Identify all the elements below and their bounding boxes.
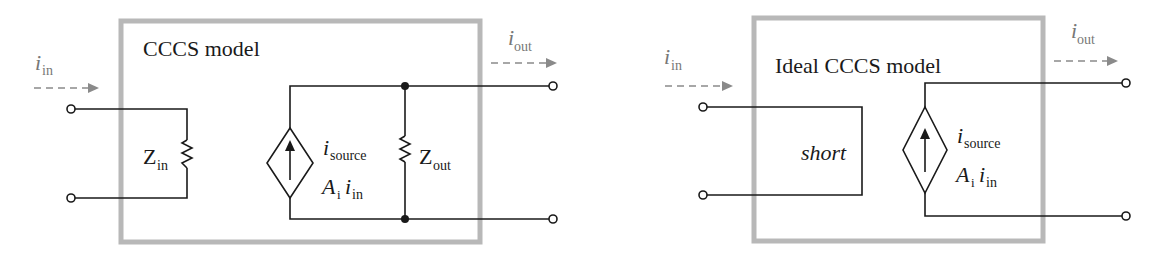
source-top-wire — [290, 86, 405, 128]
isource-symbol: i — [323, 135, 329, 160]
gain-subscript: i — [337, 187, 341, 202]
arrow-up-icon — [920, 128, 930, 139]
source-top-wire — [925, 83, 1123, 107]
arrow-up-icon — [285, 140, 295, 151]
zout-symbol: Z — [419, 144, 432, 169]
input-terminal-bottom — [699, 191, 707, 199]
model-boundary-box — [754, 18, 1043, 241]
iin-subscript: in — [986, 175, 997, 190]
gain-symbol: A — [954, 162, 970, 187]
output-current-subscript: out — [514, 39, 532, 54]
input-current-symbol: i — [35, 50, 41, 75]
input-top-wire — [75, 109, 187, 140]
source-label: i source — [323, 135, 367, 163]
output-current-indicator: i out — [1054, 18, 1118, 66]
gain-subscript: i — [971, 175, 975, 190]
isource-subscript: source — [964, 136, 1001, 151]
input-current-subscript: in — [42, 63, 53, 78]
cccs-model-diagram: CCCS model i in Z in i source A i — [34, 21, 557, 242]
isource-symbol: i — [957, 123, 963, 148]
input-current-indicator: i in — [34, 50, 99, 93]
output-terminal-top — [1122, 79, 1130, 87]
output-current-subscript: out — [1077, 32, 1095, 47]
model-title: CCCS model — [143, 36, 260, 61]
iin-symbol: i — [345, 174, 351, 199]
zin-symbol: Z — [143, 144, 156, 169]
output-impedance-resistor-icon — [400, 136, 410, 162]
input-current-indicator: i in — [664, 44, 733, 91]
model-title: Ideal CCCS model — [775, 53, 941, 78]
output-impedance-label: Z out — [419, 144, 451, 173]
source-label: i source — [957, 123, 1001, 151]
input-terminal-top — [67, 105, 75, 113]
output-terminal-bottom — [549, 215, 557, 223]
zout-subscript: out — [433, 158, 451, 173]
input-terminal-top — [699, 103, 707, 111]
arrowhead-icon — [1107, 56, 1118, 66]
iin-subscript: in — [352, 187, 363, 202]
input-terminal-bottom — [67, 194, 75, 202]
arrowhead-icon — [546, 58, 557, 68]
output-terminal-bottom — [1122, 212, 1130, 220]
source-value: A i i in — [320, 174, 363, 202]
isource-subscript: source — [330, 148, 367, 163]
arrowhead-icon — [88, 83, 99, 93]
input-current-symbol: i — [664, 44, 670, 69]
source-bottom-wire — [925, 193, 1123, 216]
input-bottom-wire — [75, 168, 187, 198]
short-label: short — [801, 140, 847, 165]
iin-symbol: i — [979, 162, 985, 187]
output-terminal-top — [549, 82, 557, 90]
arrowhead-icon — [722, 81, 733, 91]
input-impedance-resistor-icon — [182, 140, 192, 168]
zin-subscript: in — [157, 158, 168, 173]
input-current-subscript: in — [671, 58, 682, 73]
output-current-indicator: i out — [491, 25, 557, 68]
circuit-diagrams: CCCS model i in Z in i source A i — [0, 0, 1172, 254]
source-value: A i i in — [954, 162, 997, 190]
ideal-cccs-model-diagram: Ideal CCCS model i in short i source A i… — [664, 18, 1130, 241]
input-impedance-label: Z in — [143, 144, 168, 173]
gain-symbol: A — [320, 174, 336, 199]
source-bottom-wire — [290, 198, 405, 219]
